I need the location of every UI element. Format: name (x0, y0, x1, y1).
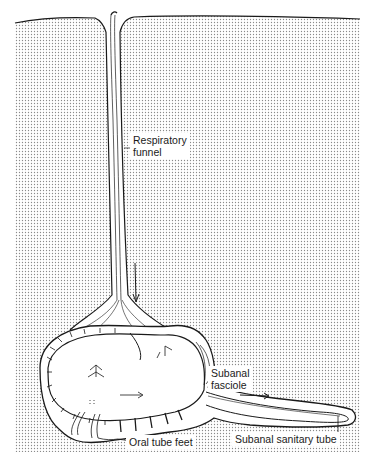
burrow-diagram (0, 0, 377, 462)
label-subanal-fasciole: Subanal fasciole (208, 366, 253, 392)
label-oral-tube-feet: Oral tube feet (126, 435, 196, 449)
label-subanal-sanitary-tube: Subanal sanitary tube (232, 432, 340, 446)
label-respiratory-funnel: Respiratory funnel (130, 133, 190, 159)
